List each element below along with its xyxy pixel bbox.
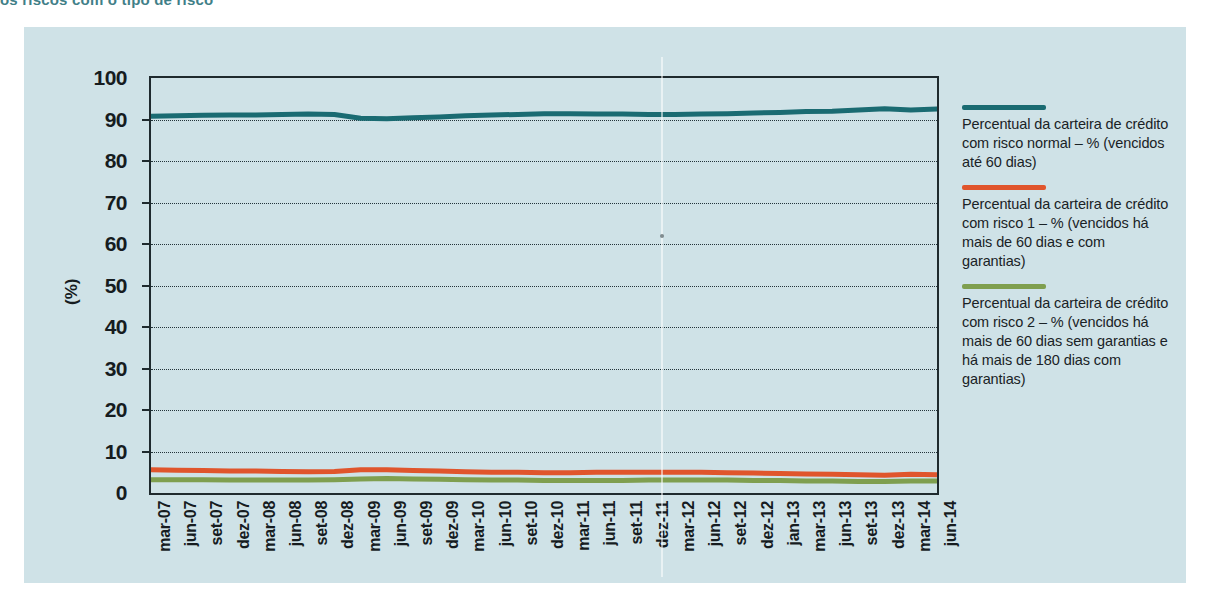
x-axis-tick-label: set-08: [313, 501, 331, 545]
y-axis-tick-label: 50: [81, 274, 127, 298]
x-axis-tick-label: mar-09: [366, 501, 384, 552]
legend-swatch: [962, 185, 1046, 190]
y-axis-tick-mark: [142, 202, 149, 204]
y-axis-tick-mark: [142, 243, 149, 245]
chart-legend: Percentual da carteira de crédito com ri…: [962, 105, 1170, 402]
x-axis-tick-label: set-09: [418, 501, 436, 545]
y-axis-tick-mark: [142, 451, 149, 453]
legend-label: Percentual da carteira de crédito com ri…: [962, 195, 1170, 271]
plot-area: [149, 76, 939, 495]
legend-entry: Percentual da carteira de crédito com ri…: [962, 105, 1170, 172]
y-axis-tick-mark: [142, 409, 149, 411]
legend-entry: Percentual da carteira de crédito com ri…: [962, 284, 1170, 389]
x-axis-tick-label: jun-13: [837, 501, 855, 546]
x-axis-tick-label: jun-07: [182, 501, 200, 546]
y-axis-tick-label: 90: [81, 108, 127, 132]
series-line: [151, 479, 937, 482]
y-axis-tick-mark: [142, 285, 149, 287]
y-axis-tick-mark: [142, 326, 149, 328]
x-axis-tick-label: mar-11: [575, 501, 593, 551]
x-axis-tick-label: dez-12: [759, 501, 777, 549]
y-axis-tick-label: 30: [81, 357, 127, 381]
y-axis-tick-label: 10: [81, 440, 127, 464]
scan-seam: [661, 57, 663, 577]
y-axis-tick-label: 40: [81, 315, 127, 339]
x-axis-tick-label: dez-08: [339, 501, 357, 549]
legend-entry: Percentual da carteira de crédito com ri…: [962, 185, 1170, 271]
legend-swatch: [962, 284, 1046, 289]
scan-speck: [660, 234, 664, 238]
y-axis-tick-label: 80: [81, 149, 127, 173]
x-axis-tick-label: dez-10: [549, 501, 567, 549]
x-axis-tick-label: mar-07: [156, 501, 174, 552]
x-axis-tick-label: set-13: [863, 501, 881, 545]
chart-panel: (%) 0102030405060708090100 mar-07jun-07s…: [24, 27, 1186, 583]
page-title: os riscos com o tipo de risco: [0, 0, 520, 9]
y-axis-tick-label: 100: [81, 66, 127, 90]
chart-page: os riscos com o tipo de risco (%) 010203…: [0, 0, 1212, 610]
x-axis-tick-label: set-11: [628, 501, 646, 545]
x-axis-tick-label: dez-13: [890, 501, 908, 549]
x-axis-tick-label: set-12: [732, 501, 750, 545]
y-axis-tick-label: 20: [81, 398, 127, 422]
x-axis-tick-label: mar-08: [261, 501, 279, 552]
x-axis-tick-label: dez-09: [444, 501, 462, 549]
x-axis-tick-label: jun-10: [497, 501, 515, 546]
y-axis-tick-mark: [142, 160, 149, 162]
x-axis-tick-label: dez-07: [235, 501, 253, 549]
x-axis-tick-label: jun-09: [392, 501, 410, 546]
y-axis-tick-label: 70: [81, 191, 127, 215]
y-axis-tick-mark: [142, 368, 149, 370]
series-line: [151, 470, 937, 475]
x-axis-labels: mar-07jun-07set-07dez-07mar-08jun-08set-…: [149, 501, 939, 601]
x-axis-tick-label: jun-11: [601, 501, 619, 545]
y-axis-label: (%): [62, 279, 82, 305]
y-axis-tick-label: 0: [81, 481, 127, 505]
legend-label: Percentual da carteira de crédito com ri…: [962, 294, 1170, 389]
x-axis-tick-label: set-10: [523, 501, 541, 545]
y-axis-tick-mark: [142, 119, 149, 121]
x-axis-tick-label: jan-13: [785, 501, 803, 545]
x-axis-tick-label: set-07: [208, 501, 226, 545]
x-axis-tick-label: mar-14: [916, 501, 934, 552]
legend-label: Percentual da carteira de crédito com ri…: [962, 115, 1170, 172]
x-axis-tick-label: jun-08: [287, 501, 305, 546]
x-axis-tick-label: mar-13: [811, 501, 829, 552]
x-axis-tick-label: jun-14: [942, 501, 960, 546]
y-axis-tick-label: 60: [81, 232, 127, 256]
legend-swatch: [962, 105, 1046, 110]
x-axis-tick-label: mar-12: [680, 501, 698, 552]
x-axis-tick-label: mar-10: [470, 501, 488, 552]
series-line: [151, 109, 937, 119]
series-lines: [151, 78, 937, 493]
x-axis-tick-label: jun-12: [706, 501, 724, 546]
